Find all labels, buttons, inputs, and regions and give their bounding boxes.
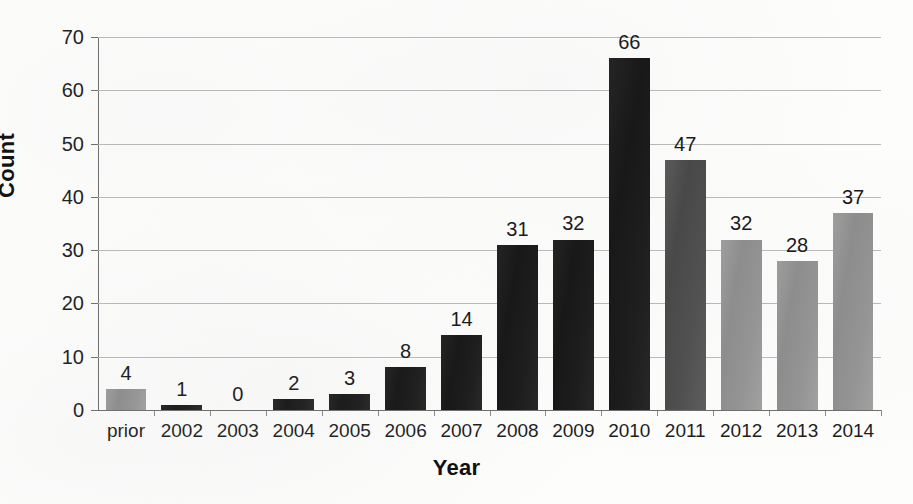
bar-value-label: 32	[545, 213, 601, 233]
bar-value-label: 14	[434, 309, 490, 329]
x-axis-category-label: 2004	[266, 421, 322, 440]
y-axis-tick	[91, 197, 98, 198]
y-axis-tick	[91, 303, 98, 304]
y-axis-tick-label: 60	[38, 80, 84, 100]
x-axis-category-label: 2006	[378, 421, 434, 440]
bar-value-label: 4	[98, 363, 154, 383]
x-axis-title: Year	[0, 455, 913, 481]
y-axis-tick-label: 40	[38, 187, 84, 207]
bar-value-label: 66	[601, 32, 657, 52]
bar	[385, 367, 426, 410]
x-axis-category-label: prior	[98, 421, 154, 440]
y-axis-tick-label: 0	[38, 400, 84, 420]
x-axis-category-label: 2008	[490, 421, 546, 440]
y-axis-tick-label: 50	[38, 134, 84, 154]
bar-value-label: 37	[825, 187, 881, 207]
x-axis-category-label: 2011	[657, 421, 713, 440]
bar	[273, 399, 314, 410]
bar	[497, 245, 538, 410]
x-axis-category-label: 2007	[434, 421, 490, 440]
bar-value-label: 47	[657, 134, 713, 154]
gridline	[98, 37, 881, 38]
gridline	[98, 250, 881, 251]
bar-value-label: 8	[378, 341, 434, 361]
y-axis-tick-label: 30	[38, 240, 84, 260]
y-axis-tick-label: 70	[38, 27, 84, 47]
y-axis-tick-label: 10	[38, 347, 84, 367]
gridline	[98, 357, 881, 358]
y-axis-tick	[91, 357, 98, 358]
bar-value-label: 32	[713, 213, 769, 233]
x-axis-category-label: 2010	[601, 421, 657, 440]
x-axis-tick	[881, 410, 882, 416]
bar-value-label: 0	[210, 384, 266, 404]
bar	[833, 213, 874, 410]
y-axis-tick	[91, 144, 98, 145]
y-axis-tick	[91, 90, 98, 91]
x-axis-category-label: 2003	[210, 421, 266, 440]
bar	[665, 160, 706, 410]
gridline	[98, 410, 881, 411]
bar	[106, 389, 147, 410]
bar	[609, 58, 650, 410]
bar-value-label: 31	[490, 219, 546, 239]
bar	[777, 261, 818, 410]
gridline	[98, 144, 881, 145]
y-axis-title: Count	[0, 133, 20, 198]
y-axis-tick	[91, 37, 98, 38]
y-axis-tick	[91, 250, 98, 251]
bar	[721, 240, 762, 411]
bar	[553, 240, 594, 411]
chart-page: Count 010203040506070 410238143132664732…	[0, 0, 913, 504]
y-axis-tick-label: 20	[38, 293, 84, 313]
bar-value-label: 2	[266, 373, 322, 393]
y-axis-tick	[91, 410, 98, 411]
bar	[161, 405, 202, 410]
gridline	[98, 303, 881, 304]
bar-value-label: 3	[322, 368, 378, 388]
x-axis-category-label: 2005	[322, 421, 378, 440]
x-axis-category-label: 2013	[769, 421, 825, 440]
bar	[441, 335, 482, 410]
bar-value-label: 28	[769, 235, 825, 255]
x-axis-category-label: 2012	[713, 421, 769, 440]
bar-value-label: 1	[154, 379, 210, 399]
x-axis-category-label: 2009	[545, 421, 601, 440]
gridline	[98, 90, 881, 91]
bar	[329, 394, 370, 410]
x-axis-category-label: 2014	[825, 421, 881, 440]
gridline	[98, 197, 881, 198]
x-axis-category-label: 2002	[154, 421, 210, 440]
